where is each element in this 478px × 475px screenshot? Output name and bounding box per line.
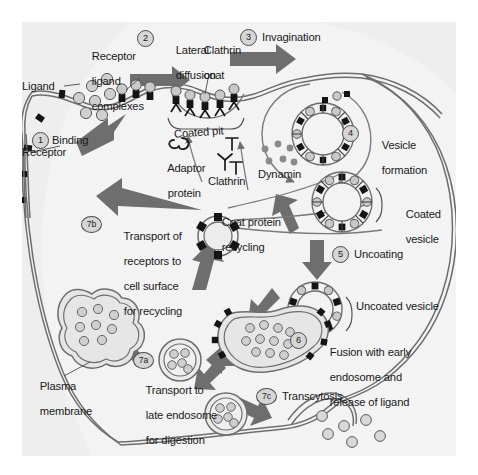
step-number-7a: 7a bbox=[133, 352, 154, 369]
plasma-line-2: membrane bbox=[40, 405, 92, 417]
label-ligand: Ligand bbox=[22, 80, 55, 92]
tl-line-3: for digestion bbox=[146, 434, 205, 446]
step-label-vesicle-formation: Vesicle formation bbox=[364, 127, 427, 189]
rlc-line-1: Receptor bbox=[92, 50, 136, 62]
recycling-line-1: Coat protein bbox=[222, 216, 281, 228]
step-label-fusion: Fusion with early endosome and release o… bbox=[312, 334, 411, 421]
recycling-line-2: recycling bbox=[222, 241, 265, 253]
label-dynamin: Dynamin bbox=[258, 168, 301, 180]
step-label-transcytosis: Transcytosis bbox=[282, 390, 343, 402]
label-adaptor-protein: Adaptor protein bbox=[150, 150, 205, 212]
ts-line-2: receptors to bbox=[124, 255, 181, 267]
coated-vesicle-line-1: Coated bbox=[406, 208, 441, 220]
step-number-4: 4 bbox=[342, 125, 359, 142]
label-receptor: Receptor bbox=[22, 146, 66, 158]
label-uncoated-vesicle: Uncoated vesicle bbox=[356, 300, 439, 312]
step-number-2: 2 bbox=[137, 30, 154, 47]
step-number-7b: 7b bbox=[81, 216, 102, 233]
ts-line-1: Transport of bbox=[124, 230, 182, 242]
coated-vesicle-line-2: vesicle bbox=[406, 233, 439, 245]
step-label-uncoating: Uncoating bbox=[354, 248, 403, 260]
tl-line-1: Transport to bbox=[146, 384, 204, 396]
vesform-line-1: Vesicle bbox=[382, 139, 416, 151]
step-number-5: 5 bbox=[332, 246, 349, 263]
plasma-line-1: Plasma bbox=[40, 380, 76, 392]
ts-line-3: cell surface bbox=[124, 280, 179, 292]
step-label-transport-surface: Transport of receptors to cell surface f… bbox=[106, 218, 182, 330]
step-label-transport-late: Transport to late endosome for digestion bbox=[128, 372, 217, 459]
label-coat-protein-recycling: Coat protein recycling bbox=[204, 204, 281, 266]
membrane-left-edge bbox=[22, 92, 32, 134]
ts-line-4: for recycling bbox=[124, 305, 182, 317]
rlc-line-3: complexes bbox=[92, 100, 144, 112]
label-clathrin-coat: Clathrin coat bbox=[186, 32, 241, 94]
adaptor-line-2: protein bbox=[168, 187, 201, 199]
step-number-3: 3 bbox=[240, 29, 257, 46]
step-label-invagination: Invagination bbox=[262, 31, 321, 43]
label-plasma-membrane: Plasma membrane bbox=[22, 368, 92, 430]
fusion-line-2: endosome and bbox=[330, 371, 402, 383]
vesform-line-2: formation bbox=[382, 164, 427, 176]
tl-line-2: late endosome bbox=[146, 409, 217, 421]
diagram-panel: 1 Binding Ligand Receptor Receptor ligan… bbox=[22, 22, 456, 456]
label-receptor-ligand-complexes: Receptor ligand complexes bbox=[74, 38, 144, 125]
step-label-binding: Binding bbox=[52, 134, 88, 146]
clathrin-coat-line-2: coat bbox=[204, 69, 225, 81]
clathrin-coat-line-1: Clathrin bbox=[204, 44, 241, 56]
step-number-6: 6 bbox=[290, 332, 307, 349]
step-number-7c: 7c bbox=[256, 388, 277, 405]
fusion-line-1: Fusion with early bbox=[330, 346, 411, 358]
figure-canvas: 1 Binding Ligand Receptor Receptor ligan… bbox=[0, 0, 478, 475]
adaptor-line-1: Adaptor bbox=[167, 162, 205, 174]
label-clathrin: Clathrin bbox=[208, 175, 245, 187]
rlc-line-2: ligand bbox=[92, 75, 121, 87]
